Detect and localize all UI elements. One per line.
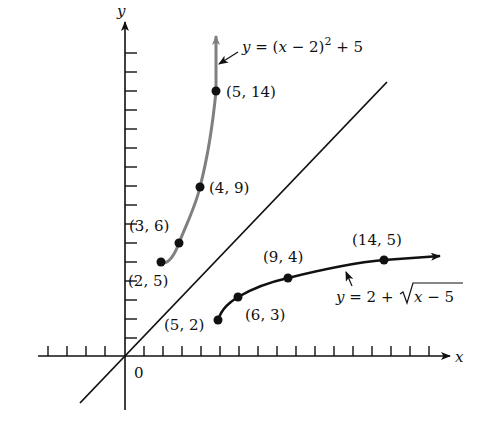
point-label-9-4: (9, 4) <box>263 248 303 266</box>
sqrt-equation: y = 2 + x − 5 <box>335 283 463 306</box>
point-label-14-5: (14, 5) <box>352 231 402 249</box>
point-label-4-9: (4, 9) <box>209 179 249 197</box>
data-point <box>234 293 243 302</box>
y-axis-ticks <box>125 53 137 338</box>
x-axis-label: x <box>455 348 464 366</box>
data-point <box>175 239 184 248</box>
parabola-label-pointer <box>219 52 238 64</box>
y-axis-label: y <box>116 2 126 20</box>
svg-text:y = 2 +: y = 2 + <box>335 288 393 306</box>
data-point <box>157 258 166 267</box>
data-point <box>284 274 293 283</box>
axes: x y 0 <box>38 2 464 410</box>
parabola-equation: y = (x − 2)2 + 5 <box>241 35 363 56</box>
point-label-2-5: (2, 5) <box>128 272 168 290</box>
sqrt-label-pointer <box>346 272 352 286</box>
svg-text:x − 5: x − 5 <box>414 288 454 306</box>
origin-label: 0 <box>134 364 144 382</box>
inverse-functions-diagram: x y 0 (2, 5) (3, 6) (4, 9) (5, 14) (5, 2… <box>0 0 479 434</box>
point-label-5-2: (5, 2) <box>164 316 204 334</box>
data-point <box>380 256 389 265</box>
point-label-6-3: (6, 3) <box>245 306 285 324</box>
x-axis-ticks <box>48 346 429 356</box>
data-point <box>214 316 223 325</box>
point-label-5-14: (5, 14) <box>226 83 276 101</box>
data-point <box>212 87 221 96</box>
data-point <box>196 183 205 192</box>
point-label-3-6: (3, 6) <box>129 217 169 235</box>
